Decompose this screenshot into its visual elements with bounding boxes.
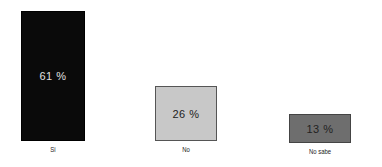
bar-value-label: 13 % [306, 123, 333, 135]
bar-no-sabe: 13 % [289, 114, 351, 143]
category-label: No [160, 146, 213, 153]
bar-chart: 61 % 26 % 13 % Si No No sabe [0, 0, 382, 167]
bar-value-label: 61 % [39, 70, 66, 82]
category-label: Si [26, 146, 80, 153]
bar-value-label: 26 % [172, 108, 199, 120]
bar-no: 26 % [155, 86, 217, 141]
bar-si: 61 % [21, 11, 85, 141]
category-label: No sabe [294, 148, 347, 155]
